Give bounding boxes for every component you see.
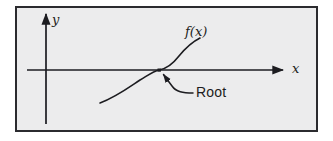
plot-canvas: x y f(x) Root [0, 0, 333, 141]
root-annotation-label: Root [196, 84, 226, 100]
function-label: f(x) [184, 24, 207, 39]
root-leader-arrow [164, 75, 194, 94]
y-axis-label: y [51, 12, 60, 27]
x-axis-label: x [292, 61, 300, 76]
root-marker [158, 69, 161, 72]
figure-container: x y f(x) Root [0, 0, 333, 141]
